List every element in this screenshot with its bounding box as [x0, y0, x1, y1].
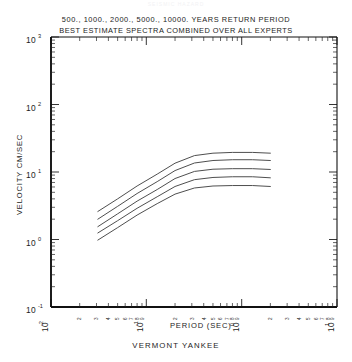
x-minor-tick-label: 2 [173, 317, 178, 320]
x-minor-tick-label: 7 [129, 317, 134, 320]
y-tick-exp-4: -1 [38, 303, 43, 309]
curve-series-4 [98, 186, 271, 241]
x-tick-exp-3: 1 [324, 323, 330, 326]
x-minor-tick-label: 2 [268, 317, 273, 320]
x-minor-tick-label: 5 [211, 317, 216, 320]
x-minor-tick-label: 6 [123, 317, 128, 320]
x-minor-tick-label: 4 [106, 317, 111, 320]
chart-page: SEISMIC HAZARD 500., 1000., 2000., 5000.… [0, 0, 352, 362]
y-axis-title: VELOCITY CM/SEC [15, 134, 24, 215]
x-tick-exp-0: -2 [38, 321, 44, 326]
x-minor-tick-label: 9 [140, 317, 145, 320]
x-minor-tick-label: 5 [115, 317, 120, 320]
x-minor-tick-label: 3 [285, 317, 290, 320]
x-minor-tick-label: 7 [225, 317, 230, 320]
x-minor-tick-label: 3 [94, 317, 99, 320]
x-minor-tick-label: 4 [297, 317, 302, 320]
x-minor-tick-label: 6 [314, 317, 319, 320]
x-minor-tick-label: 9 [330, 317, 335, 320]
y-tick-exp-1: 2 [38, 101, 41, 107]
x-minor-tick-label: 9 [235, 317, 240, 320]
y-tick-exp-2: 1 [38, 168, 41, 174]
y-tick-exp-0: 3 [38, 33, 41, 39]
data-curves [98, 152, 271, 240]
y-tick-label-4: 10 [26, 305, 36, 315]
x-minor-tick-label: 2 [77, 317, 82, 320]
y-tick-label-0: 10 [26, 35, 36, 45]
x-minor-tick-label: 7 [320, 317, 325, 320]
curve-series-2 [98, 169, 271, 227]
x-minor-tick-label: 3 [190, 317, 195, 320]
x-minor-tick-label: 5 [306, 317, 311, 320]
x-axis-title: PERIOD (SEC) [170, 321, 232, 330]
y-tick-label-2: 10 [26, 170, 36, 180]
y-tick-label-1: 10 [26, 103, 36, 113]
x-minor-tick-label: 4 [202, 317, 207, 320]
chart-caption: VERMONT YANKEE [0, 341, 352, 350]
x-tick-exp-1: -1 [133, 321, 139, 326]
x-minor-tick-label: 6 [218, 317, 223, 320]
y-tick-exp-3: 0 [38, 236, 41, 242]
y-axis-labels: 10 3 10 2 10 1 10 0 10 -1 [26, 33, 43, 315]
chart-plot-area: 234567892345678923456789 10 3 10 2 10 1 … [0, 0, 352, 362]
y-tick-label-3: 10 [26, 238, 36, 248]
